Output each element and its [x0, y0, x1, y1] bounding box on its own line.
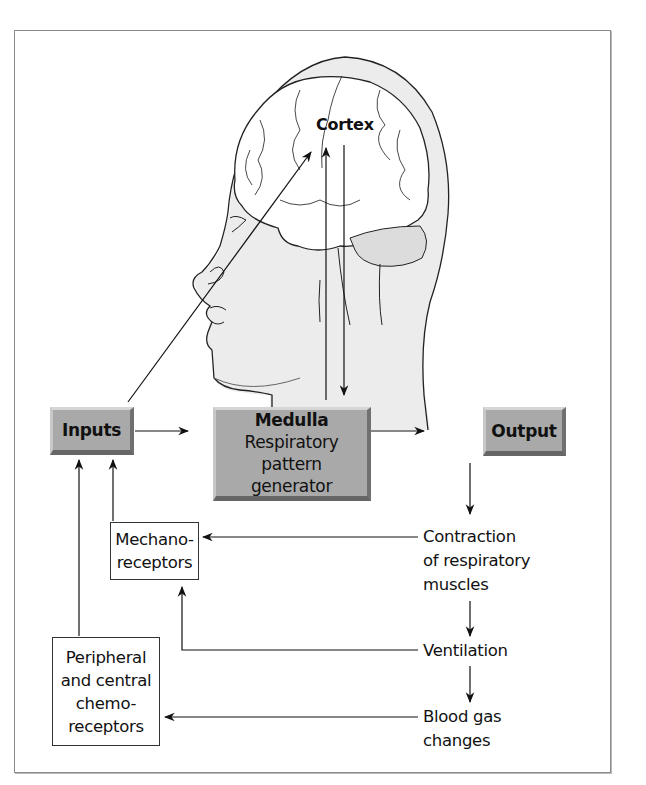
- bloodgas-line2: changes: [423, 729, 501, 753]
- contraction-text: Contraction of respiratory muscles: [423, 525, 530, 597]
- mechanoreceptors-box: Mechano- receptors: [110, 522, 199, 580]
- chemo-line2: and central: [61, 669, 152, 692]
- medulla-title: Medulla: [255, 409, 329, 431]
- bloodgas-text: Blood gas changes: [423, 705, 501, 753]
- chemoreceptors-box: Peripheral and central chemo- receptors: [52, 637, 160, 746]
- medulla-line2: generator: [251, 475, 332, 497]
- cortex-label: Cortex: [316, 115, 374, 134]
- arrow-ventilation-to-mechano: [182, 587, 418, 650]
- head-illustration: [193, 57, 449, 430]
- mechano-line1: Mechano-: [115, 528, 193, 551]
- chemo-line3: chemo-: [76, 692, 136, 715]
- medulla-box: Medulla Respiratory pattern generator: [213, 407, 371, 501]
- contraction-line3: muscles: [423, 573, 530, 597]
- inputs-box: Inputs: [50, 407, 134, 455]
- mechano-line2: receptors: [117, 551, 193, 574]
- inputs-label: Inputs: [62, 420, 121, 440]
- bloodgas-line1: Blood gas: [423, 705, 501, 729]
- chemo-line4: receptors: [68, 715, 144, 738]
- chemo-line1: Peripheral: [66, 646, 146, 669]
- medulla-line1: Respiratory pattern: [216, 431, 367, 475]
- contraction-line1: Contraction: [423, 525, 530, 549]
- contraction-line2: of respiratory: [423, 549, 530, 573]
- output-label: Output: [491, 421, 556, 441]
- output-box: Output: [483, 407, 566, 456]
- ventilation-text: Ventilation: [423, 639, 508, 663]
